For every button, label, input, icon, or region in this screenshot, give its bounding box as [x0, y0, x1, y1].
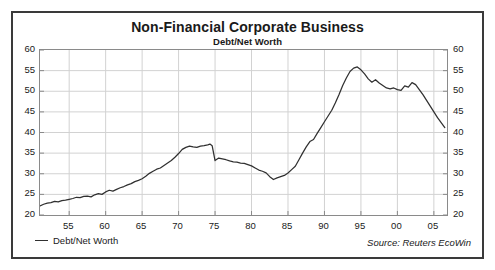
y-tick-left-30: 30 — [13, 167, 35, 178]
y-tick-right-45: 45 — [453, 105, 475, 116]
x-tick-70: 70 — [166, 220, 190, 231]
y-tick-left-35: 35 — [13, 146, 35, 157]
y-tick-left-25: 25 — [13, 187, 35, 198]
y-tick-left-55: 55 — [13, 64, 35, 75]
y-tick-left-20: 20 — [13, 208, 35, 219]
y-tick-right-55: 55 — [453, 64, 475, 75]
y-tick-right-20: 20 — [453, 208, 475, 219]
chart-legend: Debt/Net Worth — [35, 235, 118, 246]
y-tick-left-50: 50 — [13, 84, 35, 95]
y-tick-right-50: 50 — [453, 84, 475, 95]
x-tick-65: 65 — [129, 220, 153, 231]
x-tick-05: 05 — [421, 220, 445, 231]
y-tick-left-40: 40 — [13, 126, 35, 137]
x-tick-90: 90 — [312, 220, 336, 231]
legend-label: Debt/Net Worth — [53, 235, 118, 246]
plot-area — [39, 49, 448, 216]
x-tick-60: 60 — [93, 220, 117, 231]
y-tick-right-25: 25 — [453, 187, 475, 198]
y-tick-right-40: 40 — [453, 126, 475, 137]
y-tick-left-60: 60 — [13, 43, 35, 54]
x-tick-00: 00 — [384, 220, 408, 231]
y-tick-right-35: 35 — [453, 146, 475, 157]
x-tick-55: 55 — [56, 220, 80, 231]
legend-line-swatch — [35, 240, 48, 241]
gridlines — [40, 50, 447, 215]
x-tick-95: 95 — [348, 220, 372, 231]
series-line-debt-net-worth — [40, 67, 445, 206]
x-tick-85: 85 — [275, 220, 299, 231]
chart-title: Non-Financial Corporate Business — [13, 19, 482, 35]
x-tick-80: 80 — [239, 220, 263, 231]
y-tick-right-30: 30 — [453, 167, 475, 178]
chart-figure: Non-Financial Corporate Business Debt/Ne… — [11, 11, 484, 259]
y-tick-right-60: 60 — [453, 43, 475, 54]
source-note: Source: Reuters EcoWin — [367, 237, 471, 248]
chart-subtitle: Debt/Net Worth — [13, 36, 482, 47]
y-tick-left-45: 45 — [13, 105, 35, 116]
x-tick-75: 75 — [202, 220, 226, 231]
series-canvas — [40, 50, 447, 215]
